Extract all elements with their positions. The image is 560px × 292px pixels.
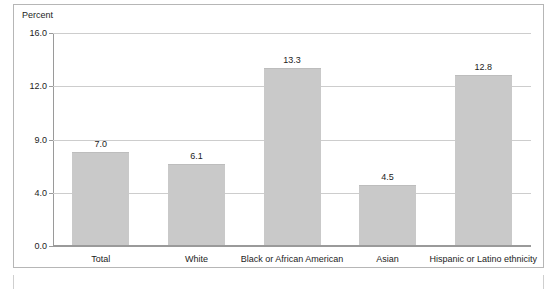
x-axis-category-label: Hispanic or Latino ethnicity xyxy=(429,254,537,264)
bar xyxy=(168,164,225,245)
y-axis-tick-mark xyxy=(49,140,53,141)
bar-value-label: 7.0 xyxy=(95,139,108,149)
x-axis-category-label: Asian xyxy=(376,254,399,264)
gridline xyxy=(53,246,531,247)
y-axis-title: Percent xyxy=(22,10,53,20)
y-axis-tick-label: 12.0 xyxy=(29,81,47,91)
bar-value-label: 6.1 xyxy=(190,151,203,161)
bar xyxy=(359,185,416,245)
bar xyxy=(72,152,129,245)
bar xyxy=(264,68,321,245)
y-axis-tick-mark xyxy=(49,33,53,34)
chart-bottom-strip xyxy=(13,275,544,289)
gridline xyxy=(53,33,531,34)
y-axis-tick-label: 0.0 xyxy=(34,241,47,251)
bar-value-label: 12.8 xyxy=(474,62,492,72)
y-axis-tick-label: 4.0 xyxy=(34,188,47,198)
chart-figure: Percent 16.012.09.04.00.0 7.0Total6.1Whi… xyxy=(0,0,560,292)
x-axis-category-label: Total xyxy=(91,254,110,264)
y-axis-tick-labels: 16.012.09.04.00.0 xyxy=(14,33,47,246)
y-axis-tick-mark xyxy=(49,246,53,247)
y-axis-tick-mark xyxy=(49,86,53,87)
y-axis-tick-label: 16.0 xyxy=(29,28,47,38)
bar-value-label: 13.3 xyxy=(283,55,301,65)
bar-value-label: 4.5 xyxy=(381,172,394,182)
bar xyxy=(455,75,512,245)
y-axis-tick-mark xyxy=(49,193,53,194)
x-axis-category-label: White xyxy=(185,254,208,264)
y-axis-tick-label: 9.0 xyxy=(34,135,47,145)
x-axis-category-label: Black or African American xyxy=(241,254,344,264)
